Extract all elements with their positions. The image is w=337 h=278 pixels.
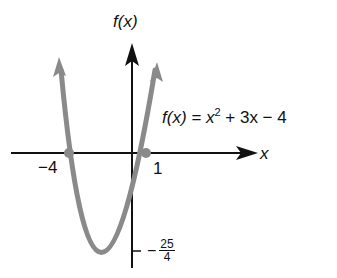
fraction-denominator: 4 <box>164 251 171 263</box>
equation-rhs: + 3x − 4 <box>221 108 287 127</box>
x-tick-label-neg4: −4 <box>38 158 57 178</box>
fraction-minus: − <box>147 242 156 260</box>
fraction: 25 4 <box>159 238 174 263</box>
root-dot-1 <box>141 148 151 158</box>
x-tick-label-1: 1 <box>153 159 162 179</box>
x-axis-label: x <box>260 144 269 164</box>
y-axis-label: f(x) <box>113 12 138 32</box>
curve-arrow-right-icon <box>150 62 163 82</box>
root-dot-neg4 <box>64 148 74 158</box>
parabola-curve <box>61 70 155 253</box>
equation-lhs: f(x) = x <box>162 108 214 127</box>
function-equation: f(x) = x2 + 3x − 4 <box>162 106 287 128</box>
y-tick-label-vertex: − 25 4 <box>147 238 175 263</box>
